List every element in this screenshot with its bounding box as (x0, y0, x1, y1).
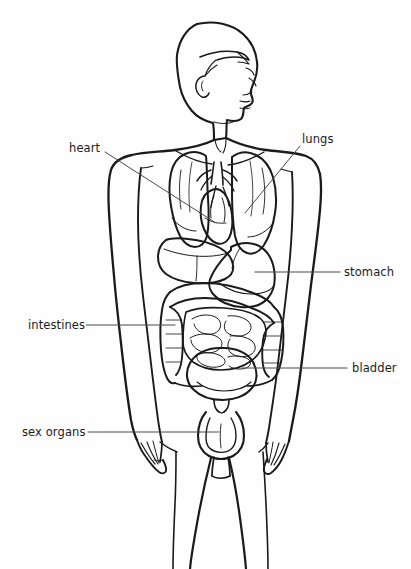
anatomy-illustration (0, 0, 411, 569)
label-sex-organs: sex organs (22, 426, 86, 438)
label-heart: heart (69, 142, 100, 154)
label-stomach: stomach (344, 266, 394, 278)
label-lungs: lungs (302, 133, 334, 145)
anatomy-diagram: heart lungs stomach intestines bladder s… (0, 0, 411, 569)
label-intestines: intestines (28, 319, 85, 331)
label-bladder: bladder (352, 362, 397, 374)
